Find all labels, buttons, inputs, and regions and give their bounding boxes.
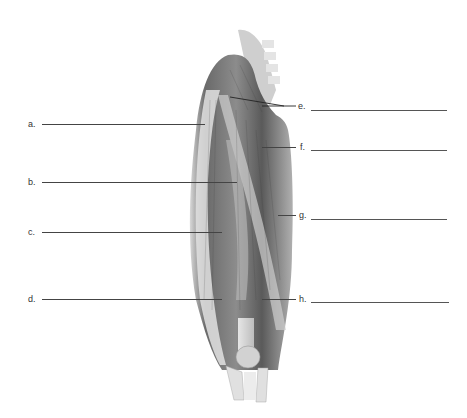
label-e: e. (298, 101, 306, 111)
answer-line-g[interactable] (311, 219, 447, 220)
label-g: g. (299, 210, 307, 220)
leader-line-g (278, 215, 296, 216)
leader-line-h (262, 299, 296, 300)
answer-line-e[interactable] (311, 110, 447, 111)
answer-line-h[interactable] (311, 302, 449, 303)
muscle-diagram: a. b. c. d. e. f. g. h. (0, 0, 467, 418)
label-f: f. (300, 142, 305, 152)
answer-line-f[interactable] (311, 150, 447, 151)
leader-line-e (0, 0, 467, 418)
label-h: h. (299, 294, 307, 304)
leader-line-f (262, 147, 296, 148)
